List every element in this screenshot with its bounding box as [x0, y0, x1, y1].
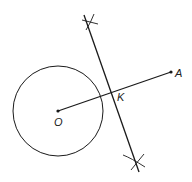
label-k: K	[117, 91, 125, 103]
point-o	[56, 109, 59, 112]
segment-oa	[58, 72, 171, 111]
label-a: A	[174, 67, 182, 79]
perpendicular-bisector	[84, 15, 139, 172]
construction-diagram: O A K	[0, 0, 192, 182]
point-a	[169, 70, 172, 73]
label-o: O	[54, 116, 63, 128]
